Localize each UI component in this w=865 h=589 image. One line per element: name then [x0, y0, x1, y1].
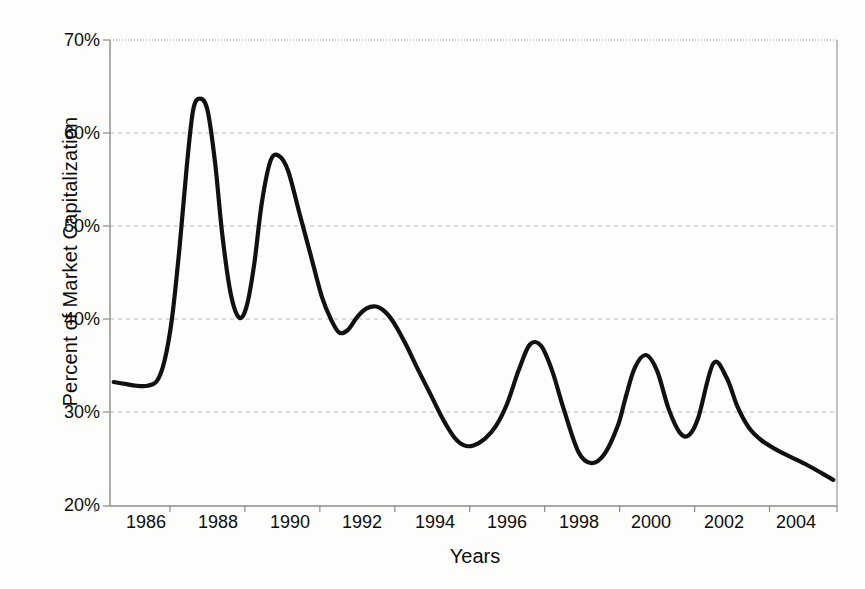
- data-series-line: [114, 99, 834, 480]
- chart-figure: Percent of Market Capitalization 70% 60%…: [0, 0, 865, 589]
- plot-area: [0, 0, 865, 589]
- y-axis-ticks: [103, 40, 110, 506]
- axis-lines: [110, 40, 837, 506]
- gridlines: [110, 40, 837, 412]
- x-axis-ticks: [95, 506, 837, 512]
- x-axis-title: Years: [110, 545, 840, 568]
